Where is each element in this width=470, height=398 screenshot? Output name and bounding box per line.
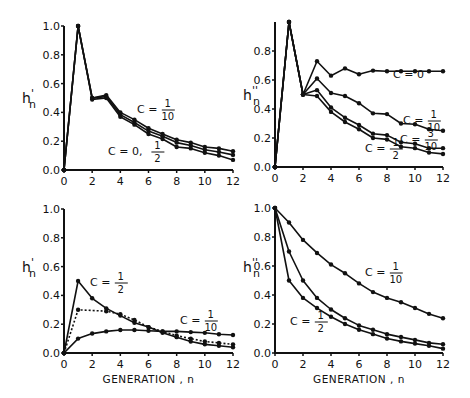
data-point xyxy=(189,146,193,150)
data-point xyxy=(343,316,347,320)
data-point xyxy=(329,73,333,77)
data-point xyxy=(441,69,445,73)
fraction-numerator: 1 xyxy=(118,271,124,282)
data-point xyxy=(385,69,389,73)
data-point xyxy=(76,24,80,28)
data-point xyxy=(203,339,207,343)
x-tick-label: 8 xyxy=(173,175,180,188)
data-point xyxy=(371,290,375,294)
data-point xyxy=(62,168,66,172)
data-point xyxy=(146,132,150,136)
data-point xyxy=(231,342,235,346)
data-point xyxy=(329,262,333,266)
x-tick-label: 0 xyxy=(272,358,279,371)
y-tick-label: 0.2 xyxy=(254,132,272,145)
data-point xyxy=(90,97,94,101)
data-point xyxy=(357,72,361,76)
x-tick-label: 10 xyxy=(408,358,422,371)
data-point xyxy=(385,112,389,116)
data-point xyxy=(441,316,445,320)
data-point xyxy=(90,296,94,300)
data-point xyxy=(441,346,445,350)
data-point xyxy=(301,296,305,300)
data-point xyxy=(76,336,80,340)
data-point xyxy=(231,158,235,162)
x-tick-label: 8 xyxy=(384,172,391,185)
y-tick-label: 0.4 xyxy=(43,106,61,119)
data-point xyxy=(189,330,193,334)
data-point xyxy=(189,336,193,340)
data-point xyxy=(160,329,164,333)
series-annotation: C = 0, xyxy=(108,145,142,158)
series-annotation: C = xyxy=(365,142,385,155)
x-tick-label: 6 xyxy=(145,358,152,371)
fraction-denominator: 2 xyxy=(318,323,324,334)
data-point xyxy=(343,94,347,98)
data-point xyxy=(132,318,136,322)
data-point xyxy=(371,136,375,140)
data-point xyxy=(76,308,80,312)
y-tick-label: 0.6 xyxy=(43,78,61,91)
x-tick-label: 4 xyxy=(328,172,335,185)
data-point xyxy=(343,322,347,326)
x-tick-label: 8 xyxy=(384,358,391,371)
data-point xyxy=(217,332,221,336)
data-point xyxy=(174,140,178,144)
fraction-denominator: 2 xyxy=(393,150,399,161)
x-tick-label: 0 xyxy=(61,358,68,371)
fraction-numerator: 1 xyxy=(165,98,171,109)
x-tick-label: 8 xyxy=(173,358,180,371)
data-point xyxy=(399,335,403,339)
series-annotation: C = xyxy=(365,266,385,279)
data-point xyxy=(301,92,305,96)
series-annotation: C = 0 xyxy=(393,68,424,81)
data-point xyxy=(132,328,136,332)
x-tick-label: 4 xyxy=(328,358,335,371)
data-point xyxy=(385,296,389,300)
data-point xyxy=(441,146,445,150)
data-point xyxy=(441,152,445,156)
fraction-denominator: 2 xyxy=(118,284,124,295)
fraction-numerator: 1 xyxy=(393,137,399,148)
y-tick-label: 0.2 xyxy=(254,318,272,331)
data-point xyxy=(385,332,389,336)
x-tick-label: 4 xyxy=(117,175,124,188)
data-point xyxy=(385,133,389,137)
data-point xyxy=(357,323,361,327)
figure: 0.00.20.40.60.81.0024681012h'nC = 110C =… xyxy=(0,0,470,398)
panel-top-right: 0.00.20.40.60.8024681012h''nC = 0C = 110… xyxy=(243,20,450,185)
fraction-denominator: 10 xyxy=(389,274,402,285)
data-point xyxy=(329,91,333,95)
y-tick-label: 0.4 xyxy=(43,289,61,302)
data-point xyxy=(413,146,417,150)
fraction-denominator: 2 xyxy=(154,153,160,164)
data-point xyxy=(287,20,291,24)
data-point xyxy=(203,151,207,155)
x-tick-label: 12 xyxy=(436,172,450,185)
y-axis-label: h'n xyxy=(22,256,36,280)
x-tick-label: 12 xyxy=(436,358,450,371)
fraction-numerator: 3 xyxy=(428,128,434,139)
x-tick-label: 2 xyxy=(89,175,96,188)
data-point xyxy=(343,120,347,124)
x-tick-label: 10 xyxy=(408,172,422,185)
x-tick-label: 12 xyxy=(226,358,240,371)
data-point xyxy=(343,116,347,120)
data-point xyxy=(357,123,361,127)
series-line xyxy=(64,26,233,170)
data-point xyxy=(273,206,277,210)
y-tick-label: 0.4 xyxy=(254,289,272,302)
y-tick-label: 0.0 xyxy=(254,161,272,174)
data-point xyxy=(287,249,291,253)
fraction-denominator: 10 xyxy=(424,141,437,152)
y-tick-label: 0.6 xyxy=(43,261,61,274)
data-point xyxy=(357,328,361,332)
series-line xyxy=(275,208,443,318)
y-axis-label: h''n xyxy=(243,256,260,280)
data-point xyxy=(385,137,389,141)
y-tick-label: 1.0 xyxy=(43,203,61,216)
x-axis-label: GENERATION , n xyxy=(103,373,195,385)
x-tick-label: 10 xyxy=(198,175,212,188)
data-point xyxy=(287,278,291,282)
fraction-numerator: 1 xyxy=(208,309,214,320)
